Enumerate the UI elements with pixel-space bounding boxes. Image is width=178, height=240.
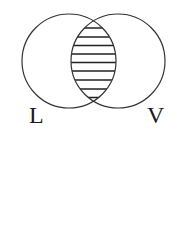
set-label-left: L	[29, 103, 44, 127]
set-label-right: V	[147, 103, 164, 127]
